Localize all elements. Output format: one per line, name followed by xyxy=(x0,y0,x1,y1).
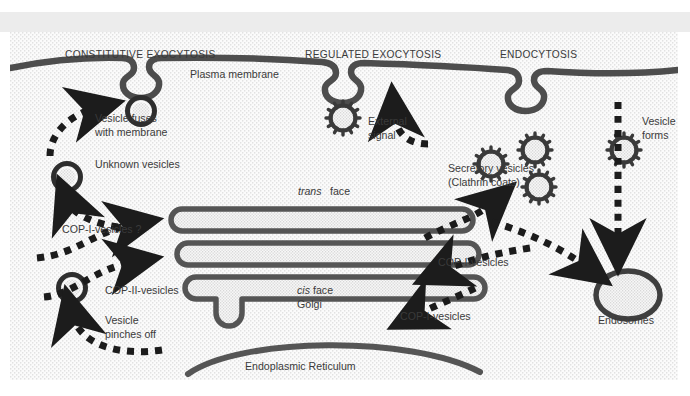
label-unknown-vesicles: Unknown vesicles xyxy=(95,158,180,170)
label-cis-face: face xyxy=(313,284,333,296)
label-vesicle-pinches-line1: Vesicle xyxy=(105,314,139,326)
smooth-vesicle-unknown xyxy=(54,164,81,191)
label-external-signal-line2: signal xyxy=(368,129,396,141)
label-vesicle-pinches-line2: pinches off xyxy=(105,328,156,340)
label-cop-i-vesicles-mid: COP-I-vesicles xyxy=(438,256,509,268)
label-cop-ii-vesicles: COP-II-vesicles xyxy=(105,284,179,296)
label-external-signal-line1: External xyxy=(368,115,407,127)
label-secretory-vesicles-line2: (Clathrin coats) xyxy=(448,176,520,188)
label-cis-italic: cis xyxy=(297,284,311,296)
top-gray-band xyxy=(0,12,690,32)
label-vesicle-fuses-line1: Vesicle fuses xyxy=(95,112,157,124)
label-endoplasmic-reticulum: Endoplasmic Reticulum xyxy=(245,360,356,372)
heading-regulated-exocytosis: REGULATED EXOCYTOSIS xyxy=(305,49,441,60)
label-cop-i-vesicles-low: COP-I-vesicles xyxy=(400,310,471,322)
heading-constitutive-exocytosis: CONSTITUTIVE EXOCYTOSIS xyxy=(65,49,216,60)
label-golgi: Golgi xyxy=(297,298,322,310)
section-headings: CONSTITUTIVE EXOCYTOSIS REGULATED EXOCYT… xyxy=(65,49,577,60)
cell-trafficking-diagram: CONSTITUTIVE EXOCYTOSIS REGULATED EXOCYT… xyxy=(10,32,678,380)
figure-canvas: CONSTITUTIVE EXOCYTOSIS REGULATED EXOCYT… xyxy=(0,0,690,396)
label-vesicle-fuses-line2: with membrane xyxy=(94,126,168,138)
label-vesicle-forms-line2: forms xyxy=(642,129,668,141)
label-trans-italic: trans xyxy=(298,185,322,197)
golgi-cisterna-medial xyxy=(177,243,479,265)
top-white-margin xyxy=(0,0,690,12)
label-cop-i-vesicles-left: COP-I-vesicles ? xyxy=(62,223,142,235)
endosome-shape xyxy=(596,271,660,319)
label-trans-face: face xyxy=(330,185,350,197)
label-endosomes: Endosomes xyxy=(598,314,654,326)
golgi-cisterna-trans xyxy=(171,209,473,231)
label-vesicle-forms-line1: Vesicle xyxy=(642,115,676,127)
label-plasma-membrane: Plasma membrane xyxy=(190,68,279,80)
label-secretory-vesicles-line1: Secretory vesicles xyxy=(448,162,534,174)
heading-endocytosis: ENDOCYTOSIS xyxy=(500,49,577,60)
